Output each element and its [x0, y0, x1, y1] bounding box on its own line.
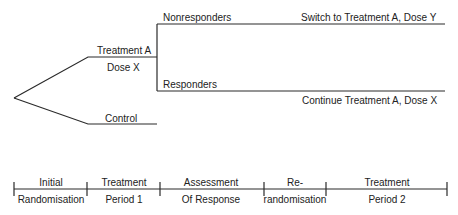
phase-3-top: Assessment [184, 177, 238, 189]
phase-1-bottom: Randomisation [18, 194, 85, 206]
nonresponders-outcome: Switch to Treatment A, Dose Y [301, 12, 436, 24]
responders-outcome: Continue Treatment A, Dose X [302, 95, 437, 107]
treatment-arm-dose: Dose X [107, 62, 140, 74]
phase-4-top: Re- [287, 177, 303, 189]
control-arm-label: Control [105, 113, 137, 125]
nonresponders-label: Nonresponders [163, 12, 231, 24]
phase-4-bottom: randomisation [264, 194, 327, 206]
phase-2-top: Treatment [101, 177, 146, 189]
phase-1-top: Initial [39, 177, 62, 189]
phase-2-bottom: Period 1 [105, 194, 142, 206]
responders-label: Responders [163, 79, 217, 91]
phase-3-bottom: Of Response [182, 194, 240, 206]
phase-5-bottom: Period 2 [368, 194, 405, 206]
treatment-arm-label: Treatment A [97, 45, 151, 57]
phase-5-top: Treatment [364, 177, 409, 189]
